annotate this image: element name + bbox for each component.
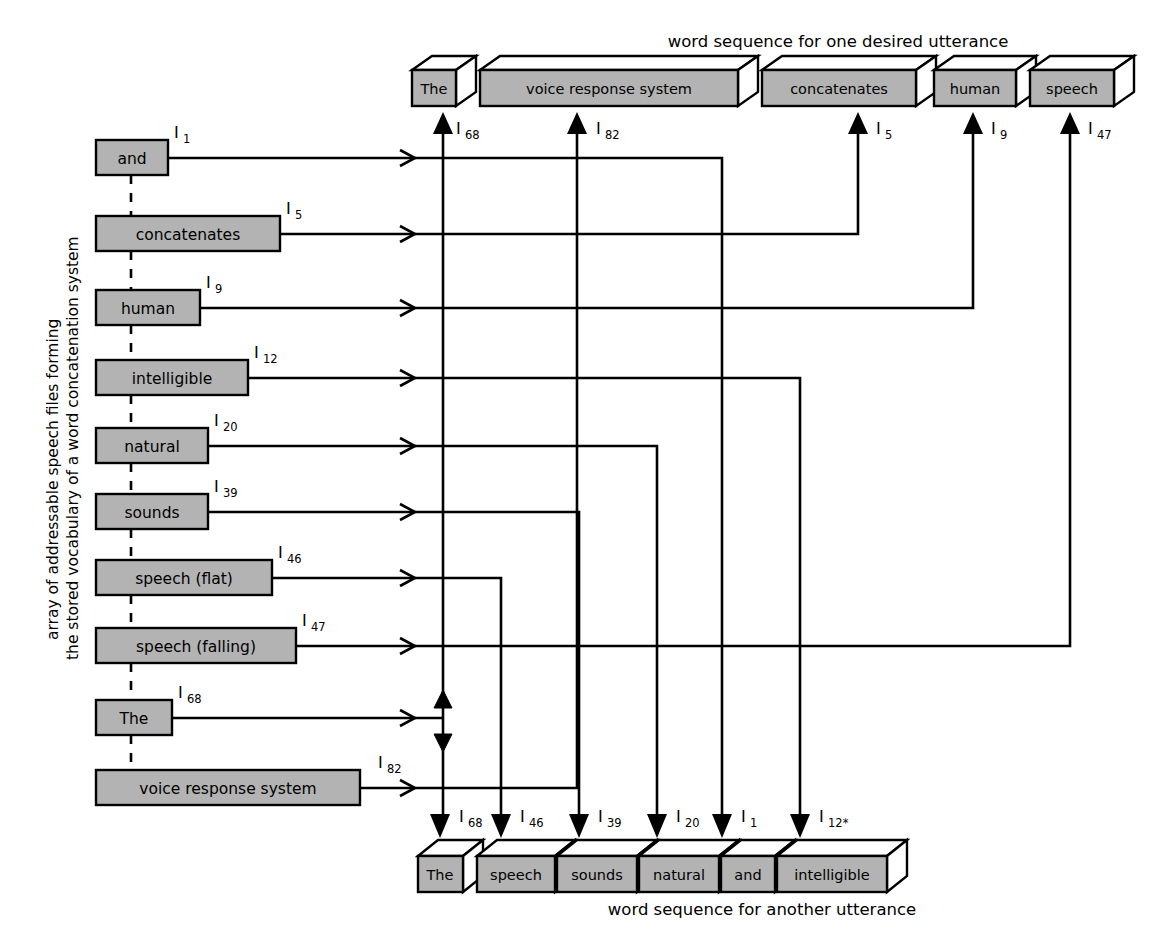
- side-label: array of addressable speech files formin…: [44, 236, 82, 660]
- vocab-index: I: [178, 683, 183, 702]
- wire-layer: [168, 112, 1080, 838]
- bottom-index-sub: 12*: [828, 816, 849, 830]
- top-word-label: speech: [1046, 81, 1098, 97]
- bottom-index-sub: 68: [468, 816, 483, 830]
- side-label-line2: the stored vocabulary of a word concaten…: [64, 236, 82, 660]
- vocabulary-array: and I 1 concatenates I 5 human I 9 intel…: [96, 123, 402, 805]
- vocab-label: intelligible: [132, 370, 213, 388]
- vocab-index-sub: 5: [295, 208, 302, 222]
- top-index-labels: I 68 I 82 I 5 I 9 I 47: [456, 119, 1112, 142]
- bottom-index: I: [598, 807, 603, 826]
- top-word-voice-response-system[interactable]: voice response system: [480, 56, 758, 106]
- vocab-label: natural: [124, 438, 179, 456]
- top-word-label: voice response system: [526, 81, 692, 97]
- top-index: I: [876, 119, 881, 138]
- top-index-sub: 5: [885, 128, 892, 142]
- vocab-index: I: [302, 611, 307, 630]
- vocab-index: I: [214, 477, 219, 496]
- vocab-index-sub: 9: [215, 282, 222, 296]
- vocab-index-sub: 47: [311, 620, 326, 634]
- vocab-index-sub: 39: [223, 486, 238, 500]
- bottom-index-sub: 39: [607, 816, 622, 830]
- top-word-label: human: [950, 81, 1001, 97]
- top-index: I: [991, 119, 996, 138]
- vocab-item-concatenates[interactable]: concatenates I 5: [96, 199, 302, 251]
- vocab-index-sub: 68: [187, 692, 202, 706]
- top-word-human[interactable]: human: [934, 56, 1036, 106]
- top-word-speech[interactable]: speech: [1030, 56, 1134, 106]
- top-index: I: [596, 119, 601, 138]
- top-index: I: [456, 119, 461, 138]
- vocab-item-speech-flat[interactable]: speech (flat) I 46: [96, 543, 302, 595]
- vocab-label: human: [121, 300, 175, 318]
- bottom-word-label: and: [734, 867, 761, 883]
- vocab-index: I: [378, 753, 383, 772]
- vocab-label: and: [117, 150, 146, 168]
- vocab-index-sub: 82: [387, 762, 402, 776]
- wire-I1: [168, 158, 722, 826]
- vocab-index-sub: 20: [223, 420, 238, 434]
- top-index: I: [1088, 119, 1093, 138]
- top-index-sub: 47: [1097, 128, 1112, 142]
- bottom-caption: word sequence for another utterance: [608, 900, 916, 919]
- bottom-index: I: [741, 807, 746, 826]
- vocab-index: I: [278, 543, 283, 562]
- bottom-index: I: [676, 807, 681, 826]
- top-word-label: The: [420, 81, 448, 97]
- top-sequence: The voice response system concatenates h…: [412, 56, 1134, 142]
- bottom-word-label: intelligible: [794, 867, 869, 883]
- bottom-index-sub: 46: [529, 816, 544, 830]
- vocab-index-sub: 46: [287, 552, 302, 566]
- vocab-item-natural[interactable]: natural I 20: [96, 411, 238, 463]
- bottom-index-sub: 20: [685, 816, 700, 830]
- vocab-item-and[interactable]: and I 1: [96, 123, 190, 175]
- top-arrowheads: [433, 112, 1080, 134]
- vocab-label: The: [119, 710, 149, 728]
- vocab-index: I: [286, 199, 291, 218]
- bottom-word-intelligible[interactable]: intelligible: [777, 840, 907, 892]
- bottom-index-sub: 1: [750, 816, 757, 830]
- top-caption: word sequence for one desired utterance: [668, 32, 1009, 51]
- bottom-word-label: The: [426, 867, 454, 883]
- vocab-index-sub: 1: [183, 132, 190, 146]
- top-word-label: concatenates: [790, 81, 888, 97]
- vocab-label: voice response system: [139, 780, 316, 798]
- top-word-the[interactable]: The: [412, 56, 476, 106]
- top-index-sub: 82: [605, 128, 620, 142]
- bottom-word-label: speech: [490, 867, 542, 883]
- bottom-index: I: [819, 807, 824, 826]
- vocab-item-human[interactable]: human I 9: [96, 273, 222, 325]
- bottom-word-label: natural: [653, 867, 705, 883]
- wire-I82: [360, 116, 577, 788]
- bottom-index: I: [459, 807, 464, 826]
- side-label-line1: array of addressable speech files formin…: [44, 319, 62, 640]
- figure-canvas: word sequence for one desired utterance …: [0, 0, 1171, 934]
- vocab-index: I: [174, 123, 179, 142]
- vocab-label: sounds: [124, 504, 179, 522]
- top-index-sub: 9: [1000, 128, 1007, 142]
- bottom-index: I: [520, 807, 525, 826]
- vocab-index-sub: 12: [263, 352, 278, 366]
- vocab-index: I: [214, 411, 219, 430]
- vocab-label: speech (falling): [136, 638, 256, 656]
- bottom-word-label: sounds: [571, 867, 623, 883]
- vocab-item-voice-response-system[interactable]: voice response system I 82: [96, 753, 402, 805]
- top-index-sub: 68: [465, 128, 480, 142]
- vocab-index: I: [206, 273, 211, 292]
- bottom-word-the[interactable]: The: [418, 840, 483, 892]
- vocab-item-the[interactable]: The I 68: [96, 683, 202, 735]
- vocab-label: concatenates: [136, 226, 240, 244]
- vocab-item-sounds[interactable]: sounds I 39: [96, 477, 238, 529]
- top-word-concatenates[interactable]: concatenates: [762, 56, 936, 106]
- vocab-index: I: [254, 343, 259, 362]
- left-output-arrowheads: [400, 150, 415, 796]
- vocab-label: speech (flat): [135, 570, 233, 588]
- vocab-item-intelligible[interactable]: intelligible I 12: [96, 343, 278, 395]
